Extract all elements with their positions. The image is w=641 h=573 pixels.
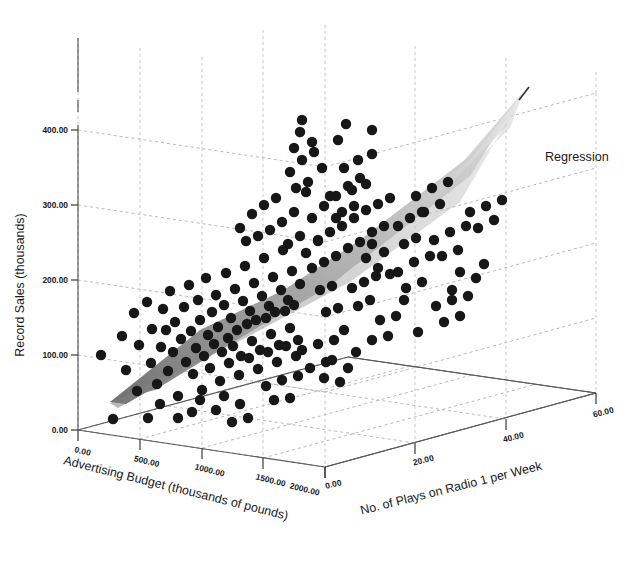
data-point xyxy=(266,329,276,339)
data-point xyxy=(303,177,313,187)
data-point xyxy=(228,341,238,351)
data-point xyxy=(313,235,323,245)
data-point xyxy=(417,277,427,287)
data-point xyxy=(443,177,453,187)
data-point xyxy=(411,191,421,201)
data-point xyxy=(337,221,347,231)
data-point xyxy=(195,315,205,325)
data-point xyxy=(249,278,259,288)
y-axis-title: Record Sales (thousands) xyxy=(13,213,27,356)
z-tick-label: 60.00 xyxy=(592,405,615,420)
data-point xyxy=(201,273,211,283)
x-tick-label: 1000.00 xyxy=(194,462,226,479)
data-point xyxy=(289,143,299,153)
data-point xyxy=(361,205,371,215)
x-tick-label: 500.00 xyxy=(133,453,161,469)
y-tick-label: 0.00 xyxy=(52,425,69,435)
plane-tip-marker xyxy=(519,87,529,100)
data-point xyxy=(272,357,282,367)
data-point xyxy=(134,340,144,350)
data-point xyxy=(405,213,415,223)
data-point xyxy=(224,358,234,368)
data-point xyxy=(361,253,371,263)
data-point xyxy=(367,149,377,159)
data-point xyxy=(276,285,286,295)
data-point xyxy=(285,167,295,177)
data-point xyxy=(265,225,275,235)
data-point xyxy=(259,200,269,210)
data-point xyxy=(219,391,229,401)
z-tick-label: 0.00 xyxy=(324,477,343,491)
data-point xyxy=(241,236,251,246)
data-point xyxy=(129,308,139,318)
data-point xyxy=(170,317,180,327)
data-point xyxy=(367,239,377,249)
data-point xyxy=(280,306,290,316)
data-point xyxy=(277,217,287,227)
data-point xyxy=(339,163,349,173)
data-point xyxy=(261,313,271,323)
data-point xyxy=(195,395,205,405)
data-point xyxy=(497,195,507,205)
data-point xyxy=(108,414,118,424)
data-point xyxy=(251,315,261,325)
data-point xyxy=(319,373,329,383)
data-point xyxy=(435,199,445,209)
data-point xyxy=(489,215,499,225)
y-tick-label: 100.00 xyxy=(42,350,68,360)
data-point xyxy=(371,271,381,281)
data-point xyxy=(242,319,252,329)
data-point xyxy=(351,347,361,357)
data-point xyxy=(411,233,421,243)
data-point xyxy=(253,364,263,374)
data-point xyxy=(349,201,359,211)
regression-legend-label: Regression xyxy=(545,150,609,164)
data-point xyxy=(419,207,429,217)
data-point xyxy=(285,393,295,403)
data-point xyxy=(317,163,327,173)
data-point xyxy=(243,413,253,423)
data-point xyxy=(473,223,483,233)
data-point xyxy=(219,300,229,310)
data-point xyxy=(165,286,175,296)
z-tick-label: 20.00 xyxy=(412,453,435,468)
data-point xyxy=(437,251,447,261)
data-point xyxy=(409,257,419,267)
data-point xyxy=(295,231,305,241)
data-point xyxy=(234,370,244,380)
data-point xyxy=(259,253,269,263)
regression-plane xyxy=(110,87,529,408)
data-point xyxy=(439,317,449,327)
data-point xyxy=(453,245,463,255)
scatter3d-figure: 400.00 300.00 200.00 100.00 0.00 Record … xyxy=(0,0,641,573)
data-point xyxy=(291,183,301,193)
data-point xyxy=(447,285,457,295)
data-point xyxy=(199,351,209,361)
data-point xyxy=(261,381,271,391)
data-point xyxy=(240,261,250,271)
data-point xyxy=(297,155,307,165)
data-point xyxy=(269,395,279,405)
data-point xyxy=(307,263,317,273)
data-point xyxy=(221,268,231,278)
data-point xyxy=(235,223,245,233)
y-tick-label: 400.00 xyxy=(42,125,68,135)
data-point xyxy=(186,326,196,336)
data-point xyxy=(343,243,353,253)
data-point xyxy=(355,237,365,247)
data-point xyxy=(365,295,375,305)
y-tick-label: 300.00 xyxy=(42,200,68,210)
data-point xyxy=(176,334,186,344)
data-point xyxy=(270,307,280,317)
data-point xyxy=(333,303,343,313)
data-point xyxy=(361,179,371,189)
data-point xyxy=(307,213,317,223)
data-point xyxy=(168,347,178,357)
data-point xyxy=(319,257,329,267)
data-point xyxy=(193,295,203,305)
data-point xyxy=(321,307,331,317)
data-point xyxy=(211,405,221,415)
data-point xyxy=(309,147,319,157)
data-point xyxy=(379,221,389,231)
data-point xyxy=(293,371,303,381)
